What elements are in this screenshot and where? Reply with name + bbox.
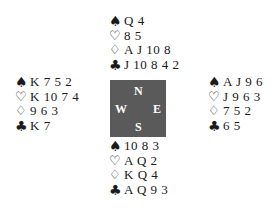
spade-icon: ♠ [109, 14, 124, 29]
west-diamonds: ♢ 9 6 3 [15, 104, 79, 119]
north-spades: ♠ Q 4 [109, 14, 180, 29]
south-hearts-cards: A Q 2 [124, 154, 158, 169]
west-hand: ♠ K 7 5 2 ♡ K 10 7 4 ♢ 9 6 3 ♣ K 7 [15, 75, 79, 133]
heart-icon: ♡ [15, 90, 30, 105]
east-hand: ♠ A J 9 6 ♡ J 9 6 3 ♢ 7 5 2 ♣ 6 5 [208, 75, 263, 133]
compass-west-label: W [115, 102, 127, 117]
east-clubs: ♣ 6 5 [208, 119, 263, 134]
north-diamonds-cards: A J 10 8 [124, 43, 171, 58]
east-diamonds: ♢ 7 5 2 [208, 104, 263, 119]
club-icon: ♣ [208, 119, 223, 134]
compass-north-label: N [134, 84, 143, 99]
club-icon: ♣ [109, 58, 124, 73]
spade-icon: ♠ [208, 75, 223, 90]
east-hearts: ♡ J 9 6 3 [208, 90, 263, 105]
south-hand: ♠ 10 8 3 ♡ A Q 2 ♢ K Q 4 ♣ A Q 9 3 [109, 139, 168, 197]
diamond-icon: ♢ [109, 43, 124, 58]
club-icon: ♣ [109, 183, 124, 198]
west-spades: ♠ K 7 5 2 [15, 75, 79, 90]
south-hearts: ♡ A Q 2 [109, 154, 168, 169]
spade-icon: ♠ [15, 75, 30, 90]
diamond-icon: ♢ [109, 168, 124, 183]
heart-icon: ♡ [109, 29, 124, 44]
west-hearts-cards: K 10 7 4 [30, 90, 79, 105]
south-clubs: ♣ A Q 9 3 [109, 183, 168, 198]
east-hearts-cards: J 9 6 3 [223, 90, 261, 105]
south-spades-cards: 10 8 3 [124, 139, 160, 154]
west-spades-cards: K 7 5 2 [30, 75, 72, 90]
east-spades: ♠ A J 9 6 [208, 75, 263, 90]
north-diamonds: ♢ A J 10 8 [109, 43, 180, 58]
west-clubs-cards: K 7 [30, 119, 51, 134]
south-diamonds: ♢ K Q 4 [109, 168, 168, 183]
spade-icon: ♠ [109, 139, 124, 154]
heart-icon: ♡ [109, 154, 124, 169]
compass-south-label: S [135, 120, 142, 135]
west-diamonds-cards: 9 6 3 [30, 104, 59, 119]
diamond-icon: ♢ [15, 104, 30, 119]
west-hearts: ♡ K 10 7 4 [15, 90, 79, 105]
south-diamonds-cards: K Q 4 [124, 168, 158, 183]
diamond-icon: ♢ [208, 104, 223, 119]
north-hearts: ♡ 8 5 [109, 29, 180, 44]
north-clubs: ♣ J 10 8 4 2 [109, 58, 180, 73]
north-hand: ♠ Q 4 ♡ 8 5 ♢ A J 10 8 ♣ J 10 8 4 2 [109, 14, 180, 72]
west-clubs: ♣ K 7 [15, 119, 79, 134]
east-clubs-cards: 6 5 [223, 119, 241, 134]
south-clubs-cards: A Q 9 3 [124, 183, 168, 198]
north-spades-cards: Q 4 [124, 14, 145, 29]
north-hearts-cards: 8 5 [124, 29, 142, 44]
north-clubs-cards: J 10 8 4 2 [124, 58, 180, 73]
compass-box: N W E S [110, 80, 166, 137]
heart-icon: ♡ [208, 90, 223, 105]
east-spades-cards: A J 9 6 [223, 75, 263, 90]
compass-east-label: E [153, 102, 161, 117]
south-spades: ♠ 10 8 3 [109, 139, 168, 154]
club-icon: ♣ [15, 119, 30, 134]
east-diamonds-cards: 7 5 2 [223, 104, 252, 119]
